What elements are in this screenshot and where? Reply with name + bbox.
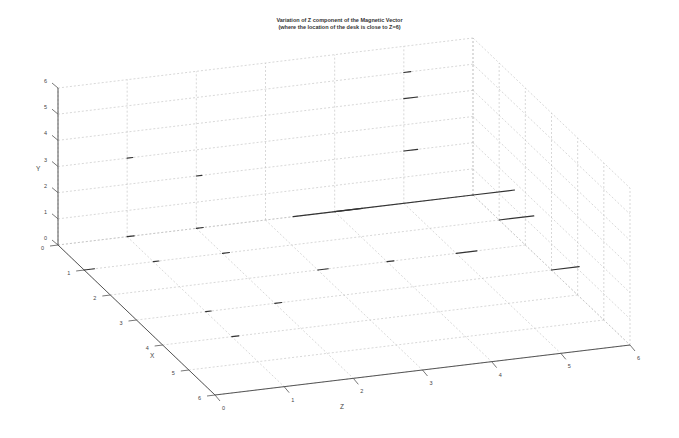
floor-grid-line: [163, 295, 578, 345]
x-tick: [181, 370, 189, 371]
x-tick-label: 0: [41, 245, 44, 251]
x-tick: [50, 245, 58, 246]
z-tick-label: 1: [291, 397, 294, 403]
x-tick-label: 3: [120, 320, 123, 326]
data-point: [387, 261, 394, 262]
data-point: [275, 303, 282, 304]
data-point: [223, 253, 230, 254]
y-tick: [52, 162, 58, 167]
y-tick: [52, 214, 58, 219]
z-tick: [353, 378, 358, 384]
z-tick: [215, 395, 220, 401]
y-tick-label: 6: [44, 78, 47, 84]
data-point: [404, 97, 418, 99]
data-point: [404, 72, 411, 73]
z-tick: [630, 345, 635, 351]
z-tick: [492, 362, 497, 368]
y-axis-label: Y: [36, 165, 41, 172]
z-axis-label: Z: [340, 403, 344, 410]
z-tick: [423, 370, 428, 376]
data-point: [153, 261, 159, 262]
data-point: [293, 208, 362, 216]
scatter3d-chart: 000111222333444555666 X Y Z: [0, 0, 679, 438]
x-tick: [76, 270, 84, 271]
y-tick: [52, 135, 58, 140]
y-tick: [52, 83, 58, 88]
tick-labels: 000111222333444555666: [41, 78, 640, 411]
y-tick-label: 0: [44, 235, 47, 241]
floor-grid-line: [266, 220, 423, 370]
y-tick-label: 1: [44, 209, 47, 215]
floor-grid-line: [189, 320, 604, 370]
x-tick: [102, 295, 110, 296]
floor-grid-line: [404, 203, 561, 353]
y-tick-label: 4: [44, 130, 47, 136]
data-point: [404, 149, 418, 151]
x-tick-label: 6: [198, 395, 201, 401]
y-tick-label: 5: [44, 104, 47, 110]
data-point: [473, 190, 515, 195]
data-point: [196, 175, 202, 176]
x-tick-label: 2: [93, 295, 96, 301]
x-tick: [207, 395, 215, 396]
data-points: [84, 72, 579, 337]
data-point: [84, 269, 94, 270]
data-point: [206, 311, 212, 312]
z-tick-label: 5: [568, 363, 571, 369]
z-tick-label: 2: [360, 388, 363, 394]
data-point: [499, 216, 534, 220]
data-point: [127, 236, 134, 237]
data-point: [127, 158, 133, 159]
x-axis-label: X: [150, 352, 155, 359]
y-tick-label: 3: [44, 157, 47, 163]
z-tick-label: 0: [222, 405, 225, 411]
grid-lines: [58, 38, 630, 395]
data-point: [318, 269, 328, 270]
x-tick-label: 4: [146, 345, 149, 351]
y-tick: [52, 188, 58, 193]
z-tick-label: 4: [499, 372, 502, 378]
x-tick: [155, 345, 163, 346]
data-point: [232, 336, 239, 337]
y-tick-label: 2: [44, 183, 47, 189]
z-tick: [561, 353, 566, 359]
backwall-grid-line: [58, 38, 473, 88]
x-tick-label: 5: [172, 370, 175, 376]
y-tick: [52, 109, 58, 114]
y-tick: [52, 240, 58, 245]
x-tick-label: 1: [67, 270, 70, 276]
data-point: [552, 267, 580, 270]
x-tick: [129, 320, 137, 321]
floor-grid-line: [335, 212, 492, 362]
z-tick: [284, 387, 289, 393]
z-tick-label: 3: [430, 380, 433, 386]
data-point: [456, 251, 477, 254]
z-tick-label: 6: [637, 355, 640, 361]
data-point: [196, 228, 203, 229]
